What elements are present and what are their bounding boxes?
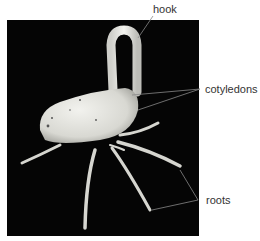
label-cotyledons: cotyledons (205, 84, 258, 95)
label-hook: hook (153, 4, 177, 15)
leader-lines (132, 16, 200, 210)
hook-illustration (111, 30, 137, 92)
label-roots: roots (206, 195, 230, 206)
